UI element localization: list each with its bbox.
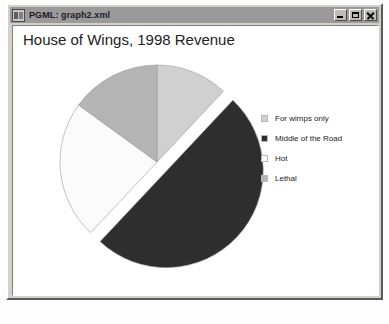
legend-item: Hot [261, 148, 376, 168]
pie-slice-group [60, 65, 263, 268]
chart-legend: For wimps onlyMiddle of the RoadHotLetha… [261, 108, 376, 188]
legend-label: Hot [275, 154, 287, 163]
maximize-icon[interactable] [349, 9, 362, 21]
legend-swatch [261, 115, 268, 122]
window-title: PGML: graph2.xml [29, 10, 334, 20]
application-window: PGML: graph2.xml House of Wings, 1998 Re… [6, 3, 383, 300]
window-titlebar[interactable]: PGML: graph2.xml [10, 7, 379, 23]
scanned-page: PGML: graph2.xml House of Wings, 1998 Re… [0, 0, 389, 324]
chart-title: House of Wings, 1998 Revenue [23, 31, 235, 48]
pie-chart-svg [53, 54, 268, 279]
pie-chart [53, 54, 268, 279]
legend-item: Lethal [261, 168, 376, 188]
close-icon[interactable] [364, 9, 377, 21]
document-icon [12, 9, 25, 22]
legend-label: Middle of the Road [275, 134, 342, 143]
legend-swatch [261, 155, 268, 162]
minimize-icon[interactable] [334, 9, 347, 21]
legend-swatch [261, 175, 268, 182]
legend-label: For wimps only [275, 114, 329, 123]
legend-label: Lethal [275, 174, 297, 183]
chart-canvas: House of Wings, 1998 Revenue For wimps o… [12, 25, 379, 296]
legend-swatch [261, 135, 268, 142]
window-controls [334, 9, 377, 21]
legend-item: Middle of the Road [261, 128, 376, 148]
legend-item: For wimps only [261, 108, 376, 128]
